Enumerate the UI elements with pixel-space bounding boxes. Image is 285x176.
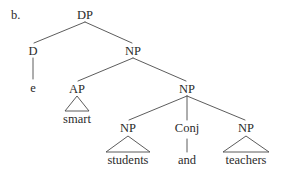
tree-node-np-coordinate: NP bbox=[179, 83, 195, 96]
dp-to-d bbox=[34, 22, 85, 43]
tree-leaf-students: students bbox=[108, 154, 149, 167]
tree-node-np-teachers: NP bbox=[238, 122, 254, 135]
tree-leaf-smart: smart bbox=[63, 113, 91, 126]
np-teachers-triangle bbox=[223, 136, 269, 152]
tree-node-ap: AP bbox=[69, 83, 85, 96]
dp-to-np bbox=[85, 22, 132, 43]
tree-node-d: D bbox=[28, 45, 37, 58]
np-coord-to-np-teachers bbox=[187, 96, 245, 120]
np-to-np-coord bbox=[133, 58, 186, 81]
tree-leaf-e: e bbox=[30, 82, 36, 95]
tree-leaf-and: and bbox=[178, 154, 196, 167]
tree-node-conj: Conj bbox=[175, 122, 199, 135]
tree-node-dp: DP bbox=[77, 9, 93, 22]
tree-leaf-teachers: teachers bbox=[226, 154, 267, 167]
tree-lines bbox=[0, 0, 285, 176]
np-to-ap bbox=[78, 58, 133, 81]
figure-item-label: b. bbox=[11, 9, 20, 22]
branch-lines bbox=[33, 22, 245, 152]
syntax-tree-figure: b. DP D NP AP NP NP Conj NP e smart stud… bbox=[0, 0, 285, 176]
ap-triangle bbox=[65, 96, 89, 111]
np-coord-to-np-students bbox=[129, 96, 187, 120]
np-students-triangle bbox=[106, 136, 150, 152]
tree-node-np-students: NP bbox=[120, 122, 136, 135]
tree-node-np-top: NP bbox=[125, 45, 141, 58]
